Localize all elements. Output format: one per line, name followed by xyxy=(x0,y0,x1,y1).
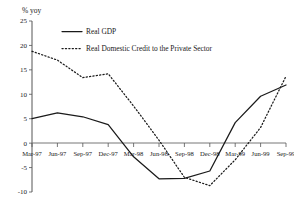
y-axis-tick-label: -5 xyxy=(21,164,27,172)
y-axis-tick-label: 5 xyxy=(24,115,28,123)
x-axis-tick-label: Sep-98 xyxy=(175,150,194,157)
chart-legend: Real GDP Real Domestic Credit to the Pri… xyxy=(62,27,213,53)
chart-container: % yoy 2520151050-5-10 Mar-97Jun-97Sep-97… xyxy=(0,0,294,212)
series-line-real-gdp xyxy=(32,85,286,179)
y-axis-tick-label: -10 xyxy=(18,188,28,196)
legend-label-real-gdp: Real GDP xyxy=(86,27,116,36)
series-line-real-domestic-credit xyxy=(32,51,286,185)
x-axis-tick-label: Sep-97 xyxy=(73,150,92,157)
legend-label-real-domestic-credit: Real Domestic Credit to the Private Sect… xyxy=(86,44,213,53)
y-axis-tick-label: 20 xyxy=(20,42,28,50)
x-axis-tick-label: Mar-98 xyxy=(124,150,144,157)
x-axis-tick-label: Dec-97 xyxy=(98,150,118,157)
x-axis-tick-label: Sep-99 xyxy=(277,150,294,157)
y-axis-tick-label: 10 xyxy=(20,91,28,99)
y-axis-tick-label: 15 xyxy=(20,66,28,74)
y-axis-tick-label: 0 xyxy=(24,140,28,148)
y-axis-tick-label: 25 xyxy=(20,17,28,25)
x-axis-tick-label: Mar-97 xyxy=(22,150,42,157)
y-axis-unit-label: % yoy xyxy=(22,6,42,15)
x-axis-tick-label: Jun-99 xyxy=(252,150,271,157)
y-axis-tick-labels: 2520151050-5-10 xyxy=(18,17,28,196)
x-axis-tick-labels: Mar-97Jun-97Sep-97Dec-97Mar-98Jun-98Sep-… xyxy=(22,150,294,157)
x-axis-tick-label: Jun-97 xyxy=(48,150,67,157)
line-chart: % yoy 2520151050-5-10 Mar-97Jun-97Sep-97… xyxy=(0,0,294,212)
